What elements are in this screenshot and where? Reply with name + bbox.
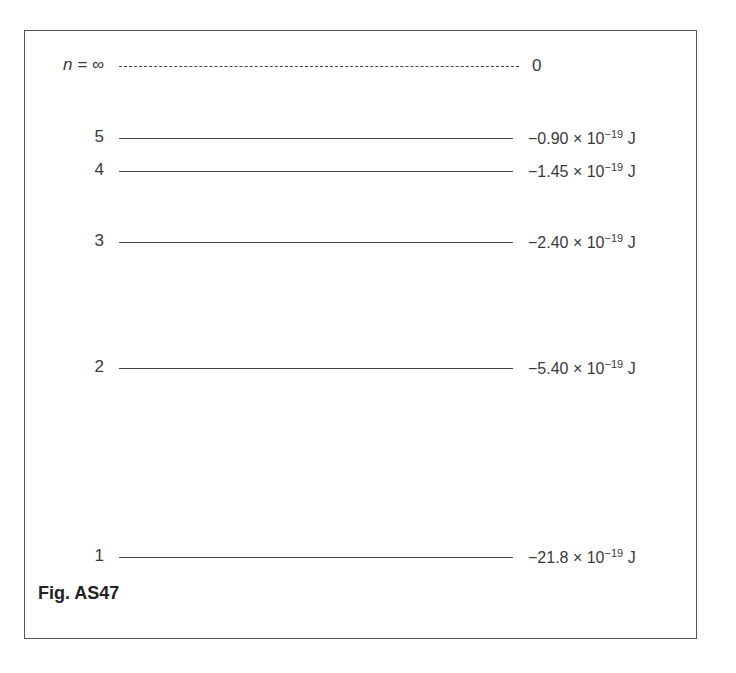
level-label: n = ∞ <box>24 55 104 75</box>
figure-caption: Fig. AS47 <box>38 583 119 604</box>
energy-exponent: −19 <box>605 128 624 140</box>
level-label: 5 <box>24 127 104 147</box>
level-energy: −5.40 × 10−19 J <box>528 358 636 378</box>
level-label: 3 <box>24 231 104 251</box>
level-energy: −0.90 × 10−19 J <box>528 128 636 148</box>
level-label: 1 <box>24 546 104 566</box>
level-line <box>119 171 513 172</box>
energy-mantissa: −5.40 × 10 <box>528 360 605 377</box>
energy-unit: J <box>623 163 635 180</box>
level-line-dashed <box>119 66 519 67</box>
energy-unit: J <box>623 549 635 566</box>
energy-exponent: −19 <box>605 232 624 244</box>
level-energy: 0 <box>532 56 541 76</box>
level-line <box>119 557 513 558</box>
energy-mantissa: −0.90 × 10 <box>528 130 605 147</box>
energy-exponent: −19 <box>605 547 624 559</box>
level-energy: −1.45 × 10−19 J <box>528 161 636 181</box>
level-line <box>119 138 513 139</box>
level-label: 4 <box>24 160 104 180</box>
energy-exponent: −19 <box>605 358 624 370</box>
level-label: 2 <box>24 357 104 377</box>
energy-exponent: −19 <box>605 161 624 173</box>
level-n: n = ∞ <box>63 55 104 74</box>
level-line <box>119 368 513 369</box>
energy-value: 0 <box>532 56 541 75</box>
energy-mantissa: −21.8 × 10 <box>528 549 605 566</box>
level-line <box>119 242 513 243</box>
energy-unit: J <box>623 234 635 251</box>
energy-unit: J <box>623 360 635 377</box>
level-energy: −2.40 × 10−19 J <box>528 232 636 252</box>
energy-unit: J <box>623 130 635 147</box>
energy-mantissa: −2.40 × 10 <box>528 234 605 251</box>
level-energy: −21.8 × 10−19 J <box>528 547 636 567</box>
energy-mantissa: −1.45 × 10 <box>528 163 605 180</box>
